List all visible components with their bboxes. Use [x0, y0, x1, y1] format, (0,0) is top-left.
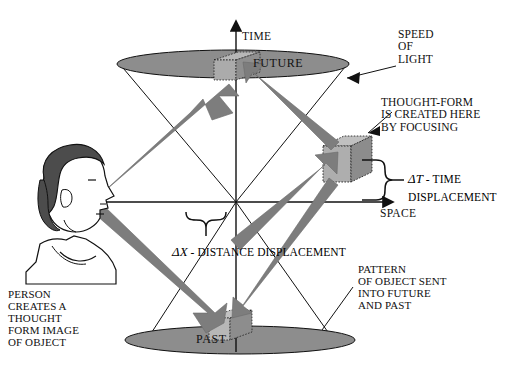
delta-x-symbol: ΔX — [172, 244, 188, 259]
time-displacement-annotation: ΔT - TIME DISPLACEMENT — [408, 169, 506, 205]
distance-displacement-text: - DISTANCE DISPLACEMENT — [188, 246, 346, 258]
distance-displacement-annotation: ΔX - DISTANCE DISPLACEMENT — [172, 242, 346, 260]
pattern-caption: PATTERN OF OBJECT SENT INTO FUTURE AND P… — [358, 264, 447, 312]
past-cone-label: PAST — [196, 333, 227, 346]
leader-pattern — [322, 287, 353, 330]
diagram-canvas: TIME FUTURE PAST SPACE SPEED OF LIGHT TH… — [0, 0, 506, 376]
future-cone-label: FUTURE — [253, 57, 303, 70]
arrow-person-to-future — [99, 84, 239, 196]
delta-t-symbol: ΔT — [408, 171, 423, 186]
distance-displacement-brace — [186, 212, 226, 236]
speed-of-light-annotation: SPEED OF LIGHT — [398, 28, 434, 65]
space-axis-label: SPACE — [380, 207, 416, 219]
person-caption: PERSON CREATES A THOUGHT FORM IMAGE OF O… — [8, 289, 79, 348]
leader-speed-of-light — [347, 66, 396, 84]
time-axis-label: TIME — [242, 30, 271, 42]
light-cone-lines — [118, 62, 349, 335]
thought-form-annotation: THOUGHT-FORM IS CREATED HERE BY FOCUSING — [381, 96, 480, 133]
person-head-profile — [26, 144, 116, 284]
